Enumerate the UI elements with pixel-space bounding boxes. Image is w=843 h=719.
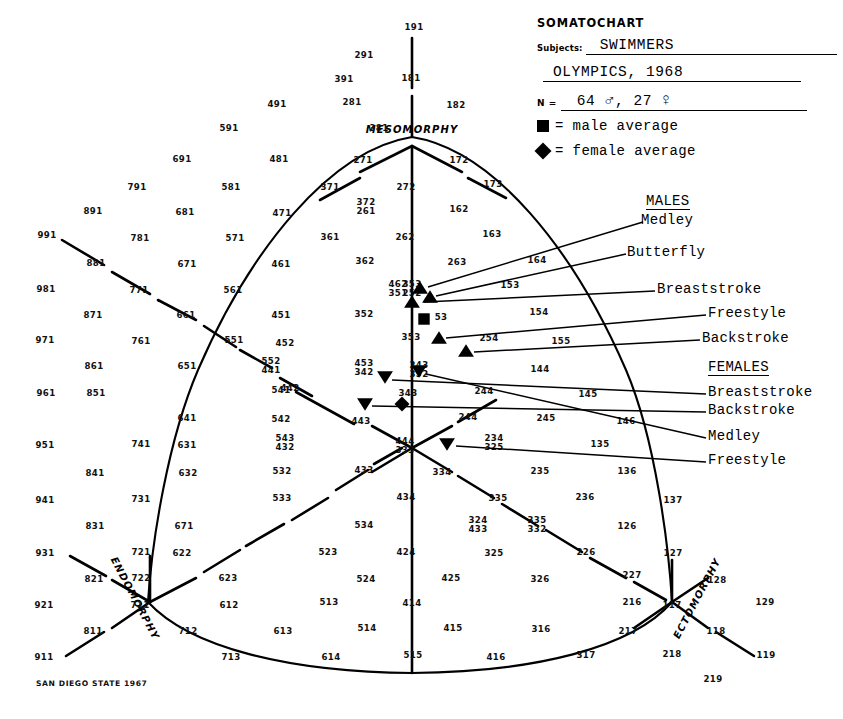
chart-credit: SAN DIEGO STATE 1967 [36,679,148,688]
grid-number: 891 [84,206,103,216]
grid-number: 452 [276,338,295,348]
grid-number: 291 [355,50,374,60]
grid-number: 571 [226,233,245,243]
grid-number: 711 [131,600,150,610]
data-marker-triangle-down [439,438,455,451]
grid-number: 941 [36,495,55,505]
grid-number: 741 [132,439,151,449]
grid-number: 163 [483,229,502,239]
series-label-females-backstroke: Backstroke [708,402,795,418]
grid-number: 53 [435,312,448,322]
grid-number: 671 [175,521,194,531]
grid-number: 532 [273,466,292,476]
grid-number: 513 [320,597,339,607]
sample-size-row: N = 64 ♂, 27 ♀ [537,92,837,111]
grid-number: 623 [219,573,238,583]
grid-number: 334 [433,467,452,477]
legend-male-row: = male average [537,118,837,134]
grid-number: 325 [485,442,504,452]
n-value: 64 ♂, 27 ♀ [561,92,807,111]
grid-number: 881 [87,258,106,268]
grid-number: 614 [322,652,341,662]
grid-number: 451 [272,310,291,320]
series-label-males-freestyle: Freestyle [708,305,786,321]
grid-number: 326 [531,574,550,584]
grid-number: 851 [87,388,106,398]
n-males: 64 [577,93,595,109]
grid-number: 514 [358,623,377,633]
grid-number: 961 [37,388,56,398]
grid-number: 343 [399,388,418,398]
grid-number: 316 [532,624,551,634]
grid-number: 651 [178,361,197,371]
diamond-marker-icon [535,143,552,160]
data-markers [357,281,474,451]
series-label-females-breaststroke: Breaststroke [708,384,812,400]
grid-number: 227 [623,570,642,580]
grid-number: 335 [489,493,508,503]
grid-number: 414 [403,598,422,608]
grid-number: 721 [132,547,151,557]
grid-number: 433 [355,465,374,475]
grid-number: 632 [179,468,198,478]
grid-number: 713 [222,652,241,662]
data-marker-triangle-down [377,371,393,384]
grid-number: 441 [262,365,281,375]
grid-number: 591 [220,123,239,133]
grid-number: 771 [130,285,149,295]
grid-number: 542 [272,414,291,424]
grid-number: 971 [36,335,55,345]
grid-number: 216 [623,597,642,607]
grid-number: 235 [531,466,550,476]
grid-number: 461 [272,259,291,269]
grid-number: 119 [757,650,776,660]
grid-number: 263 [448,257,467,267]
grid-number: 432 [276,442,295,452]
grid-number: 613 [274,626,293,636]
event-value: OLYMPICS, 1968 [543,64,801,82]
grid-number: 731 [132,494,151,504]
male-symbol-icon: ♂ [604,91,615,110]
data-marker-triangle-up [431,331,447,344]
group-header-females: FEMALES [708,359,769,376]
grid-number: 371 [321,182,340,192]
n-comma: , [615,93,624,109]
grid-number: 641 [178,413,197,423]
grid-number: 236 [576,492,595,502]
grid-number: 671 [178,259,197,269]
grid-number: 126 [618,521,637,531]
grid-number: 612 [220,600,239,610]
grid-number: 921 [35,600,54,610]
grid-number: 391 [335,74,354,84]
subjects-label: Subjects: [537,43,583,55]
grid-number: 811 [84,626,103,636]
grid-number: 352 [355,309,374,319]
grid-number: 981 [37,284,56,294]
grid-number: 991 [38,230,57,240]
grid-number: 117 [663,600,682,610]
grid-number: 416 [487,652,506,662]
grid-number: 515 [404,650,423,660]
grid-number: 219 [704,674,723,684]
n-label: N = [537,98,557,111]
grid-number: 332 [528,524,547,534]
grid-number: 317 [577,650,596,660]
grid-number: 931 [36,548,55,558]
grid-number: 245 [537,413,556,423]
grid-number: 127 [664,548,683,558]
grid-number: 173 [484,179,503,189]
subjects-row: Subjects: SWIMMERS [537,37,837,55]
grid-number: 681 [176,207,195,217]
grid-number: 911 [35,652,54,662]
grid-number: 631 [178,440,197,450]
series-label-males-breaststroke: Breaststroke [657,281,761,297]
grid-number: 831 [86,521,105,531]
grid-number: 434 [397,492,416,502]
grid-number: 861 [85,361,104,371]
grid-number: 425 [442,573,461,583]
grid-number: 155 [552,336,571,346]
data-marker-triangle-down [357,398,373,411]
grid-number: 491 [268,99,287,109]
grid-number: 951 [36,440,55,450]
grid-number: 325 [485,548,504,558]
